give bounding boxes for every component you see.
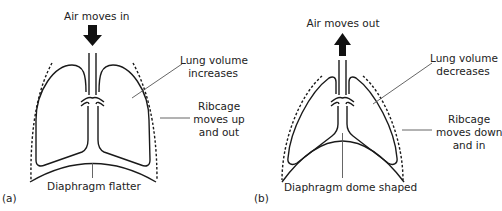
arrow-down-icon	[83, 25, 102, 46]
ribcage-label-b-line2: moves down	[436, 126, 502, 139]
lung-volume-label-a: Lung volume increases	[180, 54, 246, 80]
diaphragm-label-b: Diaphragm dome shaped	[284, 181, 402, 194]
lung-leader-b	[373, 63, 432, 104]
right-lung-b	[347, 77, 397, 164]
ribcage-label-b: Ribcage moves down and in	[436, 113, 502, 152]
ribcage-label-a-line2: moves up	[190, 113, 248, 126]
arrow-up-icon	[334, 33, 351, 56]
lung-label-a-line1: Lung volume	[180, 54, 246, 67]
panel-a-tag: (a)	[2, 192, 17, 205]
ribcage-label-a-line3: and out	[190, 126, 248, 139]
ribcage-label-b-line1: Ribcage	[436, 113, 502, 126]
left-lung-b	[288, 77, 338, 164]
diaphragm-label-a: Diaphragm flatter	[44, 180, 144, 193]
air-moves-out-label: Air moves out	[306, 17, 380, 30]
breathing-diagram: Air moves in Lung volume increases Ribca…	[0, 0, 502, 211]
ribcage-label-b-line3: and in	[436, 139, 502, 152]
panel-b-tag: (b)	[254, 192, 269, 205]
air-moves-in-label: Air moves in	[64, 10, 124, 23]
ribcage-label-a-line1: Ribcage	[190, 100, 248, 113]
panel-b-graphics	[282, 33, 404, 182]
lung-label-b-line2: decreases	[430, 65, 496, 78]
right-lung	[98, 65, 150, 166]
lung-volume-label-b: Lung volume decreases	[430, 52, 496, 78]
lung-label-a-line2: increases	[180, 67, 246, 80]
panel-a-graphics	[30, 25, 157, 182]
ribcage-label-a: Ribcage moves up and out	[190, 100, 248, 139]
lung-label-b-line1: Lung volume	[430, 52, 496, 65]
lung-leader-a	[132, 64, 182, 98]
